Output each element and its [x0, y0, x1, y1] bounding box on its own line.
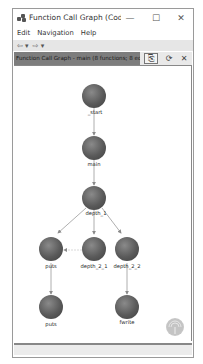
node-main[interactable]	[82, 136, 106, 160]
back-arrow-icon[interactable]: ⇦ ▾	[17, 42, 29, 50]
node-label-depth-1: depth_1	[86, 210, 107, 216]
title-bar[interactable]: Function Call Graph (CodeBr... — ☐ ✕	[13, 9, 193, 26]
window-title: Function Call Graph (CodeBr...	[29, 13, 121, 22]
maximize-button[interactable]: ☐	[143, 9, 169, 26]
node-label-puts-2: puts	[45, 321, 56, 327]
export-snapshot-icon[interactable]: ⎘	[144, 53, 158, 64]
close-panel-icon[interactable]: ✕	[177, 53, 191, 64]
minimize-button[interactable]: —	[117, 9, 143, 26]
node-puts-2[interactable]	[39, 295, 63, 319]
node-label-depth-2-2: depth_2_2	[114, 263, 141, 269]
node-start[interactable]	[82, 84, 106, 108]
edge-depth1-puts	[58, 208, 86, 233]
status-bar	[14, 343, 192, 355]
node-puts-1[interactable]	[39, 237, 63, 261]
menu-bar: Edit Navigation Help	[13, 27, 99, 39]
node-label-puts-1: puts	[45, 263, 56, 269]
close-button[interactable]: ✕	[168, 9, 194, 26]
refresh-icon[interactable]: ⟳	[162, 53, 176, 64]
graph-canvas[interactable]: _start main depth_1 puts depth_2_1 depth…	[14, 66, 192, 341]
broadcast-icon	[166, 318, 184, 336]
satellite-view-icon[interactable]	[166, 318, 184, 336]
graph-panel-header: Function Call Graph - main (8 functions;…	[14, 52, 192, 66]
node-label-depth-2-1: depth_2_1	[81, 263, 108, 269]
node-label-fwrite: fwrite	[120, 319, 135, 325]
node-fwrite[interactable]	[115, 295, 139, 319]
app-icon	[17, 14, 26, 22]
node-depth-2-2[interactable]	[115, 237, 139, 261]
menu-edit[interactable]: Edit	[17, 29, 30, 37]
node-depth-1[interactable]	[82, 186, 106, 210]
node-label-main: main	[88, 161, 101, 167]
menu-navigation[interactable]: Navigation	[37, 29, 74, 37]
forward-arrow-icon[interactable]: ⇨ ▾	[33, 42, 45, 50]
navigation-toolbar: ⇦ ▾ ⇨ ▾	[13, 40, 193, 51]
node-label-start: _start	[88, 109, 103, 115]
function-call-graph-window: Function Call Graph (CodeBr... — ☐ ✕ Edi…	[12, 8, 194, 358]
node-depth-2-1[interactable]	[82, 237, 106, 261]
menu-help[interactable]: Help	[81, 29, 97, 37]
graph-panel-title: Function Call Graph - main (8 functions;…	[14, 52, 140, 65]
